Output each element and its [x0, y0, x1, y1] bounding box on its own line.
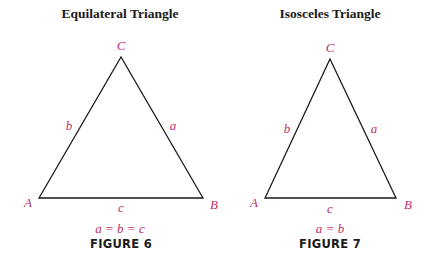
figure-7-title: Isosceles Triangle: [279, 6, 380, 22]
equation: a = b = c: [95, 222, 144, 235]
figure-6-title: Equilateral Triangle: [62, 6, 179, 22]
side-c-label: c: [327, 202, 333, 215]
vertex-a-label: A: [250, 196, 258, 209]
vertex-c-label: C: [326, 41, 335, 54]
side-c-label: c: [118, 201, 124, 214]
vertex-b-label: B: [404, 198, 412, 211]
triangle-diagrams: [0, 0, 435, 266]
side-b-label: b: [66, 119, 73, 132]
vertex-c-label: C: [117, 39, 126, 52]
side-b-label: b: [284, 122, 291, 135]
figure-caption: FIGURE 6: [90, 239, 152, 251]
equilateral-triangle: [39, 57, 203, 198]
side-a-label: a: [371, 122, 378, 135]
equation: a = b: [316, 222, 344, 235]
figure-caption: FIGURE 7: [299, 239, 361, 251]
side-a-label: a: [170, 119, 177, 132]
vertex-b-label: B: [210, 198, 218, 211]
vertex-a-label: A: [24, 196, 32, 209]
